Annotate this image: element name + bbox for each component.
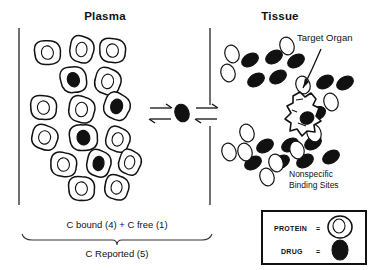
plasma-protein-cluster — [29, 35, 144, 203]
c-reported-equation: C Reported (5) — [86, 248, 149, 259]
tissue-bound-drug — [267, 67, 289, 86]
legend-protein-label: PROTEIN — [274, 225, 307, 232]
distribution-diagram: Plasma Tissue — [0, 0, 375, 270]
plasma-protein-cell — [68, 35, 95, 64]
tissue-header: Tissue — [261, 10, 298, 22]
target-organ-label: Target Organ — [297, 32, 352, 43]
tissue-bound-drug — [320, 147, 342, 166]
equilibrium-arrows-left — [149, 104, 172, 123]
legend-drug-label: DRUG — [281, 248, 303, 255]
nonspecific-binding-site — [218, 62, 237, 84]
tissue-bound-drug — [254, 136, 276, 155]
plasma-protein-cell — [104, 174, 131, 201]
plasma-protein-cell-bound — [85, 148, 113, 178]
legend-box: PROTEIN = DRUG = — [262, 211, 366, 264]
free-drug-molecule — [172, 102, 191, 124]
plasma-header: Plasma — [84, 10, 126, 22]
equilibrium-arrows-right — [195, 104, 218, 123]
plasma-protein-cell — [29, 93, 58, 121]
summation-bracket — [22, 234, 212, 245]
tissue-bound-drug — [334, 73, 356, 92]
legend-drug-equals: = — [316, 248, 320, 255]
nonspecific-binding-site — [219, 141, 238, 163]
plasma-protein-cell — [32, 37, 63, 67]
nonspecific-label-line1: Nonspecific — [289, 169, 334, 179]
legend-protein-equals: = — [316, 225, 320, 232]
figure-canvas: Plasma Tissue — [0, 0, 375, 270]
free-drug-group — [172, 102, 191, 124]
plasma-protein-cell — [30, 123, 59, 151]
tissue-bound-drug — [239, 50, 261, 69]
tissue-bound-drug — [314, 72, 336, 91]
plasma-protein-cell — [68, 95, 96, 124]
nonspecific-binding-site — [222, 43, 241, 65]
nonspecific-binding-site — [237, 122, 256, 144]
nonspecific-label-line2: Binding Sites — [289, 180, 339, 190]
legend-protein-icon — [328, 216, 352, 238]
c-bound-free-equation: C bound (4) + C free (1) — [66, 219, 167, 230]
tissue-bound-drug — [245, 70, 267, 89]
plasma-protein-cell — [98, 37, 127, 65]
plasma-protein-cell — [67, 174, 97, 203]
plasma-protein-cell-bound — [57, 63, 90, 97]
legend-drug-icon — [332, 240, 348, 260]
nonspecific-binding-site — [293, 74, 312, 96]
plasma-protein-cell — [50, 151, 78, 178]
